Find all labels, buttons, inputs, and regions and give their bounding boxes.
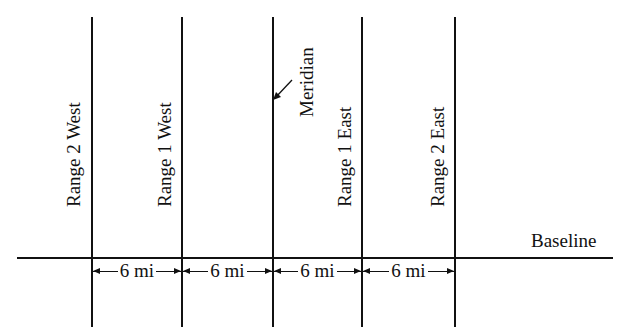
meridian-label: Meridian [297, 47, 316, 117]
left-arrow-icon [274, 271, 298, 272]
range-2-west-label: Range 2 West [64, 102, 83, 207]
right-arrow-icon [156, 271, 181, 272]
range-1-west-label: Range 1 West [155, 102, 174, 207]
range-1-east-label: Range 1 East [335, 107, 354, 207]
left-arrow-icon [93, 271, 118, 272]
left-arrow-icon [183, 271, 208, 272]
range-2-west-line [91, 17, 93, 327]
right-arrow-icon [428, 271, 454, 272]
spacing-dimension-3: 6 mi [274, 262, 361, 280]
left-arrow-icon [363, 271, 389, 272]
baseline-line [17, 257, 613, 259]
range-1-west-line [181, 17, 183, 327]
range-2-east-line [454, 17, 456, 327]
spacing-label: 6 mi [208, 260, 246, 282]
meridian-line [272, 17, 274, 327]
spacing-dimension-2: 6 mi [183, 262, 272, 280]
spacing-label: 6 mi [118, 260, 156, 282]
right-arrow-icon [337, 271, 361, 272]
meridian-pointer-arrow-icon [272, 78, 294, 102]
baseline-label: Baseline [531, 230, 596, 252]
spacing-dimension-4: 6 mi [363, 262, 454, 280]
range-1-east-line [361, 17, 363, 327]
spacing-label: 6 mi [389, 260, 427, 282]
spacing-dimension-1: 6 mi [93, 262, 181, 280]
range-2-east-label: Range 2 East [428, 107, 447, 207]
right-arrow-icon [247, 271, 272, 272]
spacing-label: 6 mi [298, 260, 336, 282]
